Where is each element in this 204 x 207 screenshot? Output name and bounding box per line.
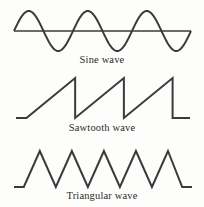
triangular-wave-curve <box>14 151 192 187</box>
triangular-wave-caption: Triangular wave <box>0 190 204 202</box>
sawtooth-wave-curve <box>16 78 190 118</box>
sawtooth-wave-plot <box>0 72 204 122</box>
sine-wave-plot <box>0 2 204 54</box>
sawtooth-wave-panel: Sawtooth wave <box>0 72 204 134</box>
sawtooth-wave-caption: Sawtooth wave <box>0 122 204 134</box>
triangular-wave-plot <box>0 144 204 190</box>
sine-wave-caption: Sine wave <box>0 54 204 66</box>
sine-wave-panel: Sine wave <box>0 2 204 66</box>
triangular-wave-panel: Triangular wave <box>0 144 204 202</box>
waveform-figure: Sine wave Sawtooth wave Triangular wave <box>0 0 204 207</box>
